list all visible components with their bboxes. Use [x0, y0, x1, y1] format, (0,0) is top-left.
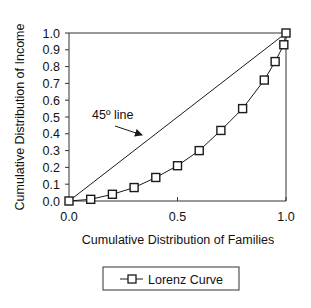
y-axis-title: Cumulative Distribution of Income [13, 24, 27, 211]
lorenz-square-marker-icon [152, 173, 160, 181]
x-axis-title: Cumulative Distribution of Families [82, 233, 274, 247]
lorenz-square-marker-icon [239, 105, 247, 113]
x-tick-label: 1.0 [277, 210, 294, 224]
legend-label: Lorenz Curve [148, 273, 223, 287]
y-tick-label: 0.9 [43, 43, 60, 57]
y-tick-label: 0.1 [43, 178, 60, 192]
legend-square-marker-icon [128, 275, 136, 283]
lorenz-chart: 0.00.10.20.30.40.50.60.70.80.91.0 0.00.5… [0, 0, 311, 308]
y-tick-label: 0.0 [43, 195, 60, 209]
lorenz-square-marker-icon [195, 147, 203, 155]
lorenz-square-marker-icon [260, 76, 268, 84]
y-tick-label: 0.8 [43, 60, 60, 74]
lorenz-square-marker-icon [174, 162, 182, 170]
annotation-arrow [115, 126, 142, 135]
lorenz-square-marker-icon [130, 184, 138, 192]
annotation-label: 45º line [92, 108, 133, 122]
lorenz-square-marker-icon [65, 197, 73, 205]
x-tick-label: 0.0 [60, 210, 77, 224]
equality-line-annotation: 45º line [92, 108, 142, 135]
y-tick-label: 0.3 [43, 144, 60, 158]
y-tick-label: 1.0 [43, 27, 60, 41]
y-tick-label: 0.2 [43, 161, 60, 175]
x-tick-label: 0.5 [169, 210, 186, 224]
lorenz-square-marker-icon [217, 126, 225, 134]
y-tick-label: 0.5 [43, 111, 60, 125]
y-tick-label: 0.6 [43, 94, 60, 108]
y-tick-label: 0.4 [43, 127, 60, 141]
legend: Lorenz Curve [103, 267, 239, 290]
y-axis-ticks: 0.00.10.20.30.40.50.60.70.80.91.0 [43, 27, 69, 209]
lorenz-square-marker-icon [271, 58, 279, 66]
lorenz-square-marker-icon [282, 29, 290, 37]
y-tick-label: 0.7 [43, 77, 60, 91]
lorenz-square-marker-icon [280, 41, 288, 49]
lorenz-square-marker-icon [108, 190, 116, 198]
lorenz-square-marker-icon [87, 195, 95, 203]
